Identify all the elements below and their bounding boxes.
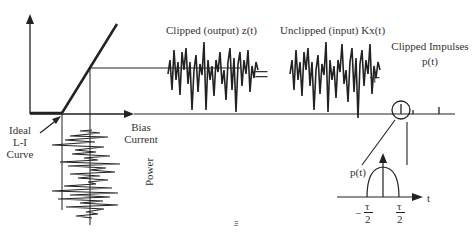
plus-sign: +	[369, 68, 380, 88]
bottom-mark: ht	[230, 221, 242, 226]
t-axis-label: t	[427, 192, 430, 204]
clipped-output-waveform	[168, 42, 258, 112]
ideal-pointer-arrow	[40, 116, 61, 133]
equals-sign: =	[254, 62, 269, 88]
clipped-impulses-label: Clipped Impulses p(t)	[388, 40, 472, 67]
unclipped-input-label: Unclipped (input) Kx(t)	[280, 24, 385, 36]
ideal-li-curve-label: Ideal L-I Curve	[3, 124, 37, 160]
li-curve-axes	[26, 14, 134, 118]
clipped-impulses	[392, 101, 439, 119]
pt-detail-label: p(t)	[350, 166, 366, 178]
bias-current-label: Bias Current	[118, 121, 164, 145]
power-axis-label: Power	[143, 158, 155, 186]
unclipped-input-waveform	[290, 42, 380, 118]
clipped-output-label: Clipped (output) z(t)	[166, 24, 257, 36]
